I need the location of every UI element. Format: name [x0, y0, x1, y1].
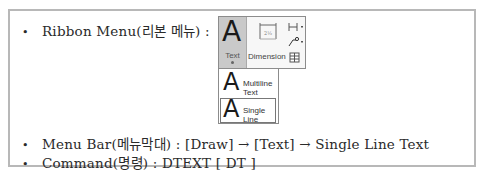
multiline-text-icon: A [223, 68, 239, 96]
command-line: •Command(명령) : DTEXT [ DT ] [22, 152, 256, 172]
bullet: • [22, 139, 42, 152]
text-a-icon: A [222, 15, 241, 48]
text-button-label: Text [219, 51, 246, 60]
ribbon-annotation-panel: A Text 2½ Dimension [218, 16, 306, 69]
small-tool-icons[interactable] [287, 20, 305, 66]
leader-icon [289, 37, 303, 46]
svg-text:2½: 2½ [264, 30, 272, 36]
text-button[interactable]: A Text [219, 17, 247, 68]
menu-item-label: Single Line [243, 106, 275, 124]
menu-item-multiline-text[interactable]: A Multiline Text [221, 72, 276, 96]
command-text: Command(명령) : DTEXT [ DT ] [42, 155, 256, 171]
dimension-icon: 2½ [258, 21, 278, 41]
dropdown-arrow-icon[interactable] [231, 61, 234, 64]
dimension-label: Dimension [248, 52, 286, 61]
ribbon-menu-text: Ribbon Menu(리본 메뉴) : [42, 23, 210, 39]
menu-bar-text: Menu Bar(메뉴막대) : [Draw] → [Text] → Singl… [42, 136, 429, 152]
linear-dimension-icon [289, 23, 303, 31]
ribbon-menu-line: •Ribbon Menu(리본 메뉴) : [22, 20, 210, 40]
menu-item-single-line[interactable]: A Single Line [220, 98, 276, 123]
text-dropdown-menu: A Multiline Text A Single Line [218, 68, 279, 124]
single-line-text-icon: A [223, 95, 239, 123]
bullet: • [22, 26, 42, 39]
menu-bar-line: •Menu Bar(메뉴막대) : [Draw] → [Text] → Sing… [22, 133, 429, 153]
info-box: •Ribbon Menu(리본 메뉴) : A Text 2½ Dimensio… [8, 9, 476, 167]
bullet: • [22, 158, 42, 171]
dimension-button[interactable]: 2½ Dimension [248, 19, 288, 66]
table-icon [290, 53, 299, 62]
menu-item-label: Multiline Text [243, 79, 276, 97]
